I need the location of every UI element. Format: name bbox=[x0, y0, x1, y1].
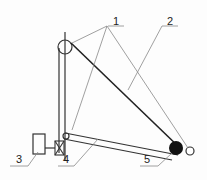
callout-2: 2 bbox=[167, 16, 173, 27]
schematic-drawing bbox=[0, 0, 207, 180]
diagram-canvas: 1 2 3 4 5 bbox=[0, 0, 207, 180]
counterweight-ball bbox=[169, 141, 183, 155]
callout-1: 1 bbox=[113, 16, 119, 27]
boom bbox=[63, 133, 178, 160]
control-box bbox=[33, 134, 45, 154]
leader-lines bbox=[10, 26, 188, 166]
callout-3: 3 bbox=[16, 154, 22, 165]
hoist-rope bbox=[71, 43, 182, 150]
tip-pivot bbox=[186, 147, 194, 155]
callout-5: 5 bbox=[144, 154, 150, 165]
callout-4: 4 bbox=[63, 154, 69, 165]
